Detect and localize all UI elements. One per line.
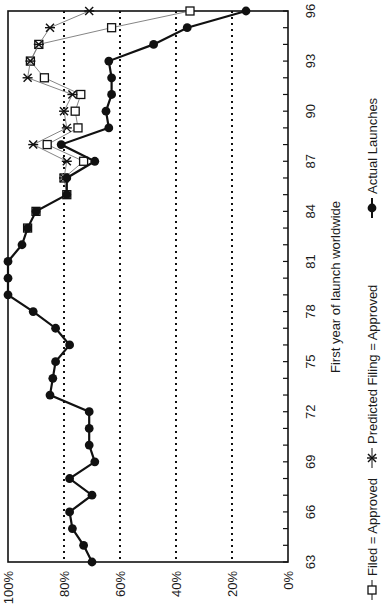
year-label: 90 xyxy=(303,104,318,118)
year-label: 84 xyxy=(303,204,318,218)
year-label: 75 xyxy=(303,354,318,368)
percent-label: 80% xyxy=(57,571,72,597)
asterisk-marker-icon xyxy=(62,124,72,132)
circle-marker-icon xyxy=(183,23,192,32)
legend-label: Actual Launches xyxy=(365,97,380,194)
series-actual-launches xyxy=(4,7,251,567)
plot-area-frame xyxy=(8,11,288,562)
square-marker-icon xyxy=(43,141,51,149)
circle-marker-icon xyxy=(85,407,94,416)
circle-marker-icon xyxy=(68,524,77,533)
legend-entry-asterisk: Predicted Filing = Approved xyxy=(365,285,380,468)
percent-label: 0% xyxy=(281,571,296,590)
circle-marker-icon xyxy=(104,57,113,66)
circle-marker-icon xyxy=(368,204,377,213)
circle-marker-icon xyxy=(51,324,60,333)
circle-marker-icon xyxy=(79,541,88,550)
year-label: 78 xyxy=(303,304,318,318)
circle-marker-icon xyxy=(90,457,99,466)
legend-label: Filed = Approved xyxy=(365,478,380,576)
year-label: 66 xyxy=(303,505,318,519)
year-label: 69 xyxy=(303,455,318,469)
square-marker-icon xyxy=(368,586,376,594)
year-label: 63 xyxy=(303,555,318,569)
square-marker-icon xyxy=(80,157,88,165)
asterisk-marker-icon xyxy=(23,74,33,82)
circle-marker-icon xyxy=(65,508,74,517)
series-filed-approved xyxy=(24,7,194,232)
year-label: 87 xyxy=(303,154,318,168)
year-axis-labels: 636669727578818487909396 xyxy=(303,4,318,569)
asterisk-marker-icon xyxy=(67,90,77,98)
circle-marker-icon xyxy=(62,174,71,183)
gridlines xyxy=(64,11,232,562)
square-marker-icon xyxy=(186,7,194,15)
circle-marker-icon xyxy=(4,274,13,283)
chart-canvas: 0%20%40%60%80%100% 636669727578818487909… xyxy=(0,0,392,607)
year-label: 81 xyxy=(303,254,318,268)
circle-marker-icon xyxy=(242,7,251,16)
asterisk-marker-icon xyxy=(45,24,55,32)
circle-marker-icon xyxy=(29,307,38,316)
circle-marker-icon xyxy=(107,73,116,82)
circle-marker-icon xyxy=(88,491,97,500)
year-axis-title: First year of launch worldwide xyxy=(328,201,343,373)
square-marker-icon xyxy=(40,74,48,82)
series-group xyxy=(4,7,251,567)
circle-marker-icon xyxy=(23,224,32,233)
circle-marker-icon xyxy=(107,90,116,99)
year-label: 93 xyxy=(303,54,318,68)
circle-marker-icon xyxy=(4,257,13,266)
series-line xyxy=(28,11,190,228)
circle-marker-icon xyxy=(32,207,41,216)
circle-marker-icon xyxy=(51,357,60,366)
circle-marker-icon xyxy=(65,341,74,350)
circle-marker-icon xyxy=(46,391,55,400)
percent-label: 20% xyxy=(225,571,240,597)
circle-marker-icon xyxy=(48,374,57,383)
circle-marker-icon xyxy=(88,558,97,567)
percent-label: 60% xyxy=(113,571,128,597)
series-line xyxy=(8,11,246,562)
square-marker-icon xyxy=(77,90,85,98)
circle-marker-icon xyxy=(90,157,99,166)
legend: Filed = ApprovedPredicted Filing = Appro… xyxy=(365,97,380,600)
percent-axis-labels: 0%20%40%60%80%100% xyxy=(1,571,296,605)
circle-marker-icon xyxy=(104,123,113,132)
asterisk-marker-icon xyxy=(84,7,94,15)
circle-marker-icon xyxy=(4,290,13,299)
circle-marker-icon xyxy=(85,424,94,433)
circle-marker-icon xyxy=(62,190,71,199)
circle-marker-icon xyxy=(65,474,74,483)
year-label: 72 xyxy=(303,404,318,418)
square-marker-icon xyxy=(108,24,116,32)
year-label: 96 xyxy=(303,4,318,18)
legend-entry-filled-circle: Actual Launches xyxy=(365,97,380,218)
asterisk-marker-icon xyxy=(28,141,38,149)
circle-marker-icon xyxy=(149,40,158,49)
rotated-line-chart: 0%20%40%60%80%100% 636669727578818487909… xyxy=(0,0,392,607)
circle-marker-icon xyxy=(57,140,66,149)
circle-marker-icon xyxy=(102,107,111,116)
legend-label: Predicted Filing = Approved xyxy=(365,285,380,444)
percent-label: 100% xyxy=(1,571,16,605)
square-marker-icon xyxy=(71,107,79,115)
percent-label: 40% xyxy=(169,571,184,597)
square-marker-icon xyxy=(74,124,82,132)
legend-entry-open-square: Filed = Approved xyxy=(365,478,380,600)
circle-marker-icon xyxy=(18,240,27,249)
asterisk-marker-icon xyxy=(62,157,72,165)
year-axis-title-group: First year of launch worldwide xyxy=(328,201,343,373)
circle-marker-icon xyxy=(85,441,94,450)
